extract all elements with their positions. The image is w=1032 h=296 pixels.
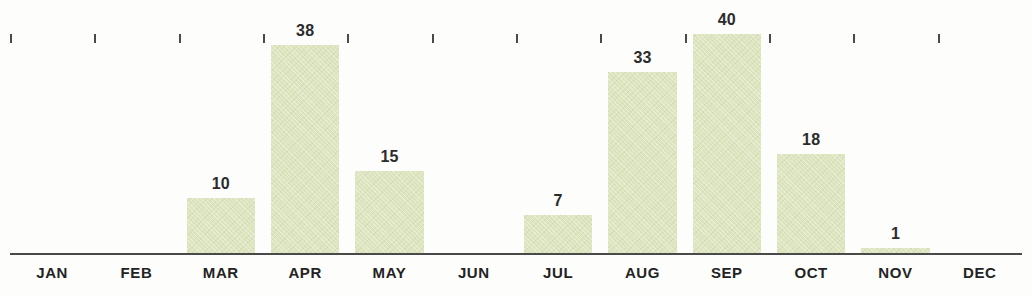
bar-nov: 1: [853, 0, 937, 253]
x-axis-label-jun: JUN: [432, 262, 516, 284]
bar-rect-sep: [693, 34, 761, 253]
bar-sep: 40: [685, 0, 769, 253]
bar-rect-mar: [187, 198, 255, 253]
x-axis-label-sep: SEP: [685, 262, 769, 284]
bar-oct: 18: [769, 0, 853, 253]
bar-rect-aug: [608, 72, 676, 253]
bar-value-label-apr: 38: [263, 23, 347, 39]
x-axis-label-may: MAY: [347, 262, 431, 284]
bar-rect-may: [355, 171, 423, 253]
bar-value-label-oct: 18: [769, 132, 853, 148]
x-axis-label-jul: JUL: [516, 262, 600, 284]
bar-value-label-mar: 10: [179, 176, 263, 192]
x-axis-label-aug: AUG: [600, 262, 684, 284]
x-axis-line: [10, 253, 1022, 255]
x-axis-tick-jul: [516, 34, 518, 43]
x-axis-label-oct: OCT: [769, 262, 853, 284]
x-axis-label-dec: DEC: [938, 262, 1022, 284]
bar-value-label-may: 15: [347, 149, 431, 165]
x-axis-tick-apr: [263, 34, 265, 43]
x-axis-label-nov: NOV: [853, 262, 937, 284]
x-axis-tick-dec: [938, 34, 940, 43]
bar-value-label-jul: 7: [516, 193, 600, 209]
x-axis-tick-feb: [94, 34, 96, 43]
bar-chart: 10381573340181 JANFEBMARAPRMAYJUNJULAUGS…: [0, 0, 1032, 296]
x-axis-tick-aug: [600, 34, 602, 43]
bar-value-label-sep: 40: [685, 12, 769, 28]
x-axis-label-jan: JAN: [10, 262, 94, 284]
x-axis-label-mar: MAR: [179, 262, 263, 284]
bar-value-label-nov: 1: [853, 226, 937, 242]
bar-may: 15: [347, 0, 431, 253]
bar-jul: 7: [516, 0, 600, 253]
bar-rect-apr: [271, 45, 339, 253]
bar-rect-oct: [777, 154, 845, 253]
bar-mar: 10: [179, 0, 263, 253]
bar-aug: 33: [600, 0, 684, 253]
x-axis-tick-jun: [432, 34, 434, 43]
x-axis-label-feb: FEB: [94, 262, 178, 284]
x-axis-category-labels: JANFEBMARAPRMAYJUNJULAUGSEPOCTNOVDEC: [10, 262, 1022, 292]
x-axis-tick-nov: [853, 34, 855, 43]
x-axis-tick-may: [347, 34, 349, 43]
bar-apr: 38: [263, 0, 347, 253]
x-axis-tick-jan: [10, 34, 12, 43]
x-axis-tick-mar: [179, 34, 181, 43]
x-axis-tick-oct: [769, 34, 771, 43]
bar-rect-jul: [524, 215, 592, 253]
x-axis-label-apr: APR: [263, 262, 347, 284]
x-axis-tick-sep: [685, 34, 687, 43]
bar-value-label-aug: 33: [600, 50, 684, 66]
